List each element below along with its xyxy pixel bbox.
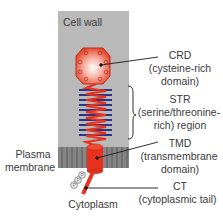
tmd-cylinder	[87, 144, 103, 174]
tmd-desc-line1: (transmembrane	[136, 150, 222, 162]
ct-abbr: CT	[150, 180, 210, 192]
str-abbr: STR	[150, 93, 210, 105]
crd-domain	[76, 48, 110, 84]
str-desc-line2: rich) region	[140, 119, 220, 131]
cytoplasm-label: Cytoplasm	[68, 198, 118, 210]
tmd-desc-line2: domain)	[140, 163, 220, 175]
cell-wall-label: Cell wall	[63, 16, 102, 28]
plasma-membrane-label-line1: Plasma	[10, 148, 56, 160]
phosphate-icons: P P P	[71, 172, 86, 189]
crd-abbr: CRD	[150, 49, 210, 61]
tmd-abbr: TMD	[150, 137, 210, 149]
plasma-membrane-label-line2: membrane	[4, 161, 56, 173]
str-desc-line1: (serine/threonine-	[134, 106, 223, 118]
crd-desc-line2: domain)	[140, 75, 220, 87]
crd-desc-line1: (cysteine-rich	[140, 62, 220, 74]
ct-desc-line1: (cytoplasmic tail)	[130, 193, 223, 205]
